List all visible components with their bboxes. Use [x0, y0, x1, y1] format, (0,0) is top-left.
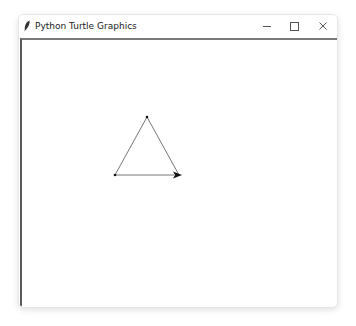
vertex-dot — [146, 116, 149, 119]
window-title: Python Turtle Graphics — [35, 20, 137, 32]
turtle-canvas[interactable] — [20, 38, 338, 308]
maximize-button[interactable] — [282, 18, 306, 34]
minimize-icon — [263, 26, 271, 27]
minimize-button[interactable] — [255, 18, 279, 34]
title-bar[interactable]: Python Turtle Graphics — [19, 15, 337, 38]
triangle-drawing — [22, 40, 338, 308]
maximize-icon — [290, 22, 299, 31]
vertex-dot — [114, 174, 117, 177]
feather-icon — [23, 20, 31, 32]
close-button[interactable] — [311, 18, 335, 34]
close-icon — [319, 22, 327, 30]
turtle-window: Python Turtle Graphics — [18, 14, 338, 308]
